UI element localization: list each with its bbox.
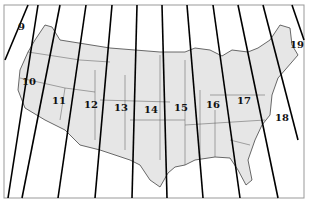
zone-label: 14 — [144, 104, 158, 115]
zone-label: 11 — [52, 95, 66, 106]
zone-label: 13 — [114, 102, 128, 113]
zone-label: 16 — [206, 99, 220, 110]
zone-label: 12 — [84, 99, 98, 110]
zone-label: 9 — [18, 21, 25, 32]
zone-label: 15 — [174, 102, 188, 113]
utm-zone-map: 9 10 11 12 13 14 15 16 17 18 19 — [0, 0, 309, 203]
zone-label: 19 — [290, 39, 304, 50]
zone-label: 18 — [275, 112, 289, 123]
zone-label: 10 — [22, 76, 36, 87]
zone-label: 17 — [237, 95, 251, 106]
